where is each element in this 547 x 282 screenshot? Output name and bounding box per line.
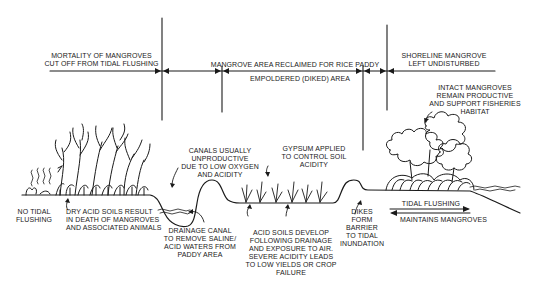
zone-label-mortality: MORTALITY OF MANGROVES CUT OFF FROM TIDA… — [44, 52, 159, 68]
annotation-intact-mangroves: INTACT MANGROVES REMAIN PRODUCTIVE AND S… — [420, 84, 530, 116]
annotation-dikes: DIKES FORM BARRIER TO TIDAL INUNDATION — [340, 208, 384, 248]
dead-mangroves-icon — [26, 124, 150, 195]
mangrove-reclamation-diagram: MORTALITY OF MANGROVES CUT OFF FROM TIDA… — [0, 0, 547, 282]
evaporation-squiggles — [31, 168, 51, 186]
annotation-acid-soils: ACID SOILS DEVELOP FOLLOWING DRAINAGE AN… — [238, 229, 344, 277]
sea-water — [470, 186, 520, 191]
zone-label-shoreline: SHORELINE MANGROVE LEFT UNDISTURBED — [388, 52, 500, 68]
annotation-gypsum: GYPSUM APPLIED TO CONTROL SOIL ACIDITY — [272, 145, 356, 169]
annotation-drainage-canal: DRAINAGE CANAL TO REMOVE SALINE/ ACID WA… — [160, 227, 240, 259]
annotation-canals: CANALS USUALLY UNPRODUCTIVE DUE TO LOW O… — [180, 147, 260, 179]
rice-plants-icon — [242, 182, 327, 202]
intact-mangroves-icon — [386, 112, 474, 190]
zone-label-reclaimed: MANGROVE AREA RECLAIMED FOR RICE PADDY — [195, 61, 395, 69]
annotation-tidal-flushing: TIDAL FLUSHING — [396, 200, 466, 208]
zone-label-empoldered: EMPOLDERED (DIKED) AREA — [240, 75, 360, 83]
annotation-dry-acid-soils: DRY ACID SOILS RESULT IN DEATH OF MANGRO… — [66, 208, 166, 232]
annotation-maintains-mangroves: MAINTAINS MANGROVES — [400, 216, 482, 224]
annotation-no-tidal-flushing: NO TIDAL FLUSHING — [14, 208, 54, 224]
